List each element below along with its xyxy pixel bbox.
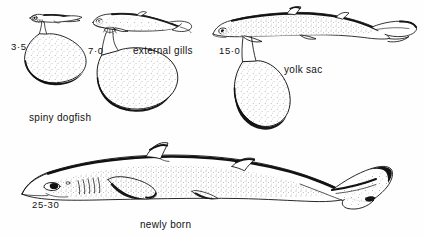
figure-illustration: 3·5 7·0 15·0 25-30 spiny dogfish externa… bbox=[0, 0, 424, 238]
external-gills-label: external gills bbox=[133, 45, 193, 56]
stage-2-size-label: 7·0 bbox=[88, 45, 104, 56]
stage-1-size-label: 3·5 bbox=[11, 41, 27, 52]
species-name-label: spiny dogfish bbox=[29, 112, 91, 123]
newly-born-label: newly born bbox=[140, 219, 191, 230]
yolk-sac-label: yolk sac bbox=[284, 64, 323, 75]
stage-3-size-label: 15·0 bbox=[219, 45, 240, 56]
stage-4-size-label: 25-30 bbox=[32, 199, 59, 210]
